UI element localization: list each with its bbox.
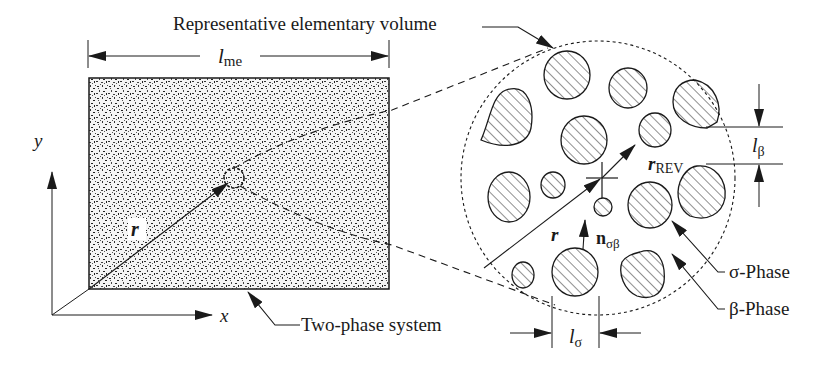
beta-phase-leader-arrow bbox=[672, 254, 725, 309]
rev-radius-vector bbox=[602, 145, 635, 178]
rev-radius-label-sub: REV bbox=[655, 161, 683, 176]
particle bbox=[609, 68, 647, 108]
lme-label-sub: me bbox=[224, 53, 243, 69]
x-axis-label: x bbox=[219, 305, 229, 326]
position-vector-right-label: r bbox=[551, 224, 559, 245]
y-axis-label: y bbox=[32, 130, 43, 151]
particle bbox=[621, 251, 665, 298]
position-vector-left-label: r bbox=[131, 218, 139, 240]
svg-text:nσβ: nσβ bbox=[596, 228, 620, 251]
particle bbox=[673, 80, 719, 128]
beta-phase-label: β-Phase bbox=[729, 298, 789, 319]
particle bbox=[488, 172, 530, 222]
particle bbox=[541, 172, 565, 198]
two-phase-system-region bbox=[89, 78, 389, 289]
particle bbox=[544, 51, 590, 99]
particle bbox=[552, 248, 598, 296]
particle bbox=[481, 89, 532, 146]
l-sigma-label-sub: σ bbox=[575, 335, 583, 350]
rev-title-leader-arrow bbox=[482, 27, 553, 48]
sigma-phase-label: σ-Phase bbox=[729, 261, 790, 282]
particle bbox=[561, 116, 607, 164]
particle bbox=[678, 166, 725, 218]
svg-text:lme: lme bbox=[218, 44, 243, 69]
rev-title-label: Representative elementary volume bbox=[173, 13, 437, 34]
particle bbox=[594, 198, 612, 216]
svg-text:lβ: lβ bbox=[752, 134, 765, 159]
two-phase-leader-arrow bbox=[248, 292, 300, 325]
sigma-phase-particles bbox=[481, 51, 725, 297]
particle bbox=[639, 113, 671, 147]
svg-text:lσ: lσ bbox=[569, 325, 583, 350]
svg-text:rREV: rREV bbox=[648, 153, 683, 176]
normal-vector bbox=[583, 220, 585, 249]
particle bbox=[512, 262, 534, 288]
normal-label-sub: σβ bbox=[606, 236, 620, 251]
rev-diagram: Representative elementary volume lme y x… bbox=[0, 0, 831, 365]
two-phase-system-label: Two-phase system bbox=[301, 314, 442, 335]
origin-offset-line bbox=[52, 289, 89, 315]
l-beta-label-sub: β bbox=[758, 144, 765, 159]
particle bbox=[628, 182, 672, 228]
l-sigma-dimension: lσ bbox=[510, 296, 641, 350]
normal-label-base: n bbox=[596, 228, 606, 248]
lme-dimension: lme bbox=[88, 40, 389, 69]
